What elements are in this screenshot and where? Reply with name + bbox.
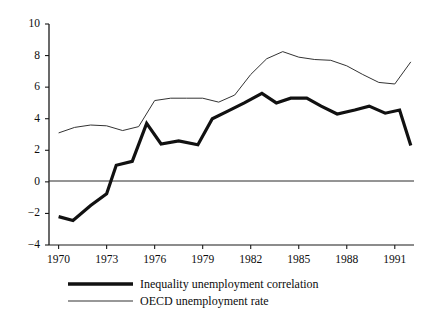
chart-container: 1086420−2−4 1970197319761979198219851988…	[0, 0, 423, 317]
legend-label-inequality: Inequality unemployment correlation	[140, 277, 319, 292]
legend-swatches	[0, 0, 423, 317]
legend-label-oecd: OECD unemployment rate	[140, 294, 269, 309]
